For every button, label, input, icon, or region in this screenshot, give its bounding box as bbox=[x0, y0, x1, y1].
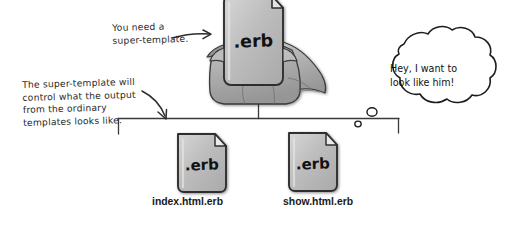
thought-bubble-dot-large bbox=[367, 108, 377, 116]
index-erb-label: .erb bbox=[185, 155, 220, 174]
annotation-top: You need a super-template. bbox=[112, 20, 189, 47]
document-fold-parent bbox=[272, 0, 283, 8]
arrow-left-annotation bbox=[142, 91, 165, 116]
tree-connectors bbox=[118, 104, 399, 134]
thought-bubble-text: Hey, I want to look like him! bbox=[390, 62, 486, 89]
thought-bubble-dot-small bbox=[355, 121, 361, 127]
caption-index-html-erb: index.html.erb bbox=[152, 196, 223, 207]
caption-show-html-erb: show.html.erb bbox=[283, 196, 353, 207]
node-super-template[interactable] bbox=[207, 0, 326, 104]
diagram-canvas: .erb .erb .erb bbox=[0, 0, 515, 236]
annotation-left: The super-template will control what the… bbox=[22, 76, 137, 130]
document-fold-show bbox=[326, 133, 337, 145]
document-fold-index bbox=[215, 134, 226, 146]
show-erb-label: .erb bbox=[296, 154, 331, 173]
parent-erb-label: .erb bbox=[233, 30, 273, 51]
